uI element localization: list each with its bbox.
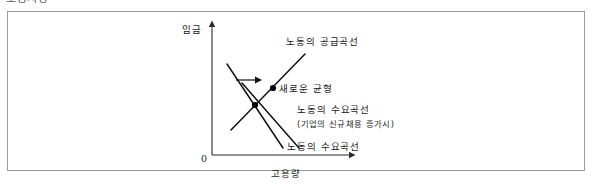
original-equilibrium-point — [252, 102, 258, 108]
shifted-demand-curve-sublabel: (기업의 신규채용 증가시) — [297, 119, 394, 129]
x-axis-label: 고용량 — [271, 168, 301, 179]
new-equilibrium-label: 새로운 균형 — [279, 83, 332, 94]
y-axis-label: 임금 — [182, 24, 202, 35]
origin-label: 0 — [201, 153, 207, 164]
new-equilibrium-point — [270, 85, 276, 91]
labor-market-supply-demand-chart: 임금 고용량 0 노동의 공급곡선 새로운 균형 노동의 수요곡선 (기업의 신… — [0, 0, 595, 186]
shifted-demand-curve-label: 노동의 수요곡선 — [297, 104, 370, 115]
demand-shift-guide — [228, 82, 270, 130]
original-demand-curve-label: 노동의 수요곡선 — [287, 141, 360, 152]
supply-curve-label: 노동의 공급곡선 — [286, 36, 359, 47]
